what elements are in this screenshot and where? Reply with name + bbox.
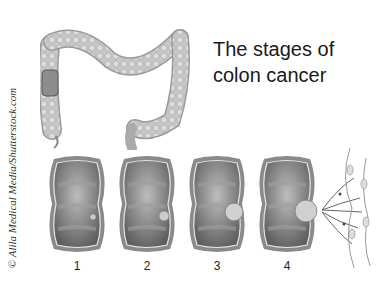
colon-illustration	[40, 20, 190, 150]
stage-4-label: 4	[256, 259, 318, 273]
stage-1-label: 1	[46, 259, 108, 273]
stage-3-segment	[186, 155, 248, 253]
stage-3-label: 3	[186, 259, 248, 273]
stage-2-segment	[116, 155, 178, 253]
title-line-2: colon cancer	[213, 62, 334, 88]
title-line-1: The stages of	[213, 36, 334, 62]
stage-1-segment	[46, 155, 108, 253]
diagram-title: The stages of colon cancer	[213, 36, 334, 88]
copyright-credit: © Alila Medical Media/Shutterstock.com	[2, 70, 22, 285]
stage-4-segment	[256, 155, 318, 253]
stage-2-label: 2	[116, 259, 178, 273]
lymph-node-spread	[320, 148, 376, 268]
